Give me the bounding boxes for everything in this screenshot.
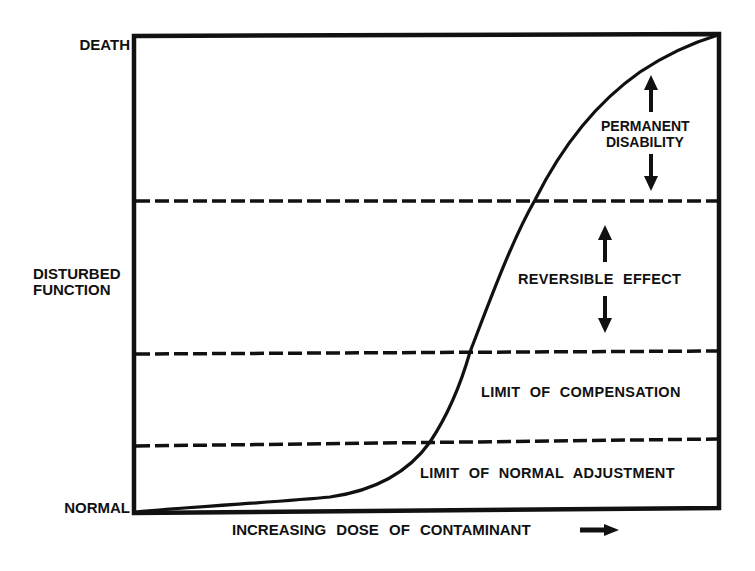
down-arrow-icon	[644, 154, 658, 191]
down-arrow-icon	[598, 296, 612, 333]
y-label-normal: NORMAL	[64, 500, 130, 516]
y-label-function: FUNCTION	[33, 282, 111, 298]
dose-response-diagram: DEATH DISTURBED FUNCTION NORMAL PERMANEN…	[0, 0, 755, 571]
y-label-death: DEATH	[79, 37, 130, 53]
limit-of-compensation-threshold-line	[136, 351, 717, 354]
zone-label-limit-of-compensation: LIMIT OF COMPENSATION	[481, 384, 681, 400]
zone-label-reversible-effect: REVERSIBLE EFFECT	[518, 271, 681, 287]
zone-label-permanent: PERMANENT	[601, 118, 690, 134]
right-arrow-icon	[580, 524, 619, 536]
x-axis-label: INCREASING DOSE OF CONTAMINANT	[232, 521, 531, 538]
zone-label-disability: DISABILITY	[606, 134, 684, 150]
y-label-disturbed: DISTURBED	[33, 266, 121, 282]
up-arrow-icon	[644, 75, 658, 112]
zone-label-limit-of-normal-adjustment: LIMIT OF NORMAL ADJUSTMENT	[420, 465, 675, 481]
up-arrow-icon	[598, 225, 612, 262]
